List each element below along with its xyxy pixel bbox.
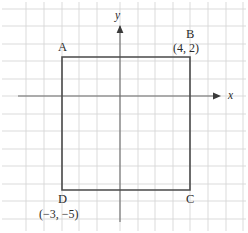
vertex-coord-d: (−3, −5) bbox=[39, 208, 79, 220]
vertex-label-d: D bbox=[58, 193, 67, 206]
vertex-label-a: A bbox=[58, 41, 67, 54]
x-axis-label: x bbox=[228, 90, 233, 102]
vertex-label-b: B bbox=[186, 28, 194, 41]
coordinate-plane-figure: A B (4, 2) C D (−3, −5) x y bbox=[0, 0, 248, 233]
rectangle-shape bbox=[0, 0, 248, 233]
y-axis-label: y bbox=[115, 10, 120, 22]
vertex-label-c: C bbox=[186, 193, 194, 206]
vertex-coord-b: (4, 2) bbox=[173, 42, 199, 54]
rectangle-abcd-outline bbox=[62, 57, 190, 190]
